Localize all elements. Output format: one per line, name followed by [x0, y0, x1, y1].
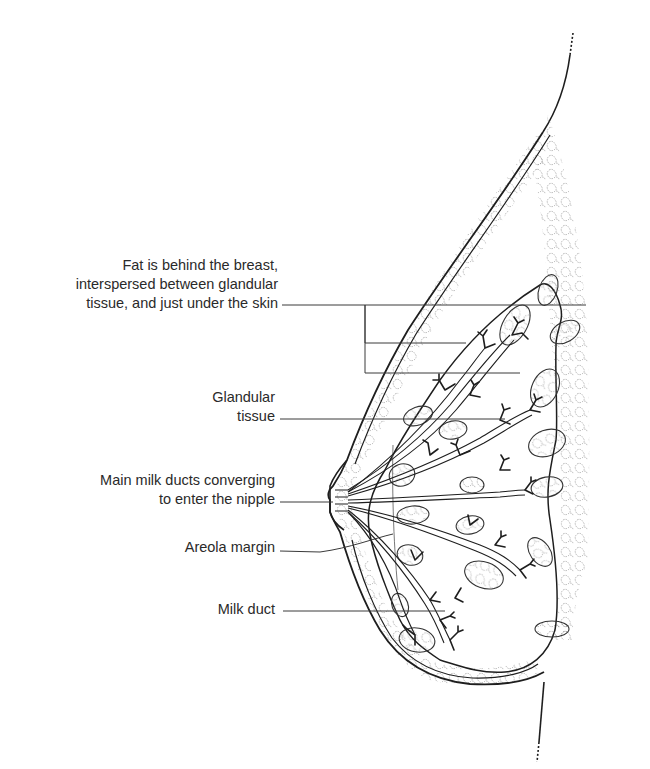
subcutaneous-fat — [333, 130, 545, 687]
breast-anatomy-diagram — [0, 0, 650, 769]
leader-areola — [280, 534, 393, 552]
